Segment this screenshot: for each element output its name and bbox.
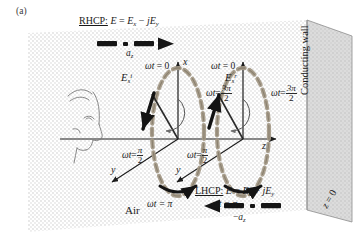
lhcp-E: E: [226, 185, 232, 196]
incident-phase-bottom-eq: = π: [159, 199, 173, 209]
lhcp-plus: +: [254, 185, 260, 196]
incident-E-sup: i: [130, 72, 132, 80]
incident-phase-bottom-omega: ωt: [147, 199, 156, 209]
reflected-phase-left: ωt=π2: [187, 146, 208, 165]
lhcp-equation: LHCP: E = Ex + jEy: [195, 186, 274, 198]
rhcp-term1-sub: x: [133, 20, 136, 27]
incident-phase-bottom: ωt = π: [147, 200, 172, 210]
rhcp-E: E: [110, 15, 116, 26]
reflected-phase-top-eq: = 0: [223, 61, 235, 71]
incident-phase-left-omega: ωt: [122, 150, 131, 160]
axis-label-x: x: [183, 57, 187, 67]
lhcp-direction-label: −az: [233, 213, 246, 223]
axis-label-z: z: [262, 141, 266, 151]
axis-label-y-reflected: y: [176, 165, 180, 175]
reflected-phase-bottom: ωt = π: [212, 200, 237, 210]
rhcp-equals: =: [119, 15, 125, 26]
incident-phase-left-den: 2: [137, 156, 144, 165]
lhcp-az-sub: z: [243, 216, 246, 223]
reflected-phase-left-den: 2: [202, 156, 209, 165]
conducting-wall-label: Conducting wall: [300, 25, 311, 95]
rhcp-prefix: RHCP:: [79, 15, 108, 26]
reflected-phase-right: ωt=3π2: [271, 84, 297, 103]
incident-phase-top-omega: ωt: [145, 61, 154, 71]
incident-phase-top-eq: = 0: [157, 61, 169, 71]
axis-label-y-incident: y: [111, 165, 115, 175]
incident-field-symbol: Esi: [121, 73, 132, 85]
reflected-phase-left-omega: ωt: [187, 150, 196, 160]
incident-phase-left: ωt=π2: [122, 146, 143, 165]
reflected-phase-top-omega: ωt: [211, 61, 220, 71]
rhcp-equation: RHCP: E = Ex − jEy: [79, 16, 159, 28]
figure-canvas: (a) RHCP: E = Ex − jEy az LHCP: E = Ex +…: [0, 0, 363, 238]
reflected-phase-top: ωt = 0: [211, 62, 235, 72]
rhcp-direction-label: az: [126, 49, 133, 59]
reflected-phase-bottom-eq: = π: [224, 199, 238, 209]
lhcp-equals: =: [234, 185, 240, 196]
lhcp-term1-sub: x: [249, 190, 252, 197]
reflected-phase-right-den: 2: [286, 94, 297, 103]
lhcp-prefix: LHCP:: [195, 185, 223, 196]
reflected-E-sup: r: [234, 72, 237, 80]
rhcp-az-sub: z: [131, 52, 134, 59]
air-label: Air: [125, 205, 140, 216]
reflected-phase-right-omega: ωt: [271, 88, 280, 98]
incident-phase-right-omega: ωt: [206, 88, 215, 98]
incident-phase-right-den: 2: [221, 94, 232, 103]
panel-label: (a): [16, 7, 27, 17]
rhcp-term2-sub: y: [156, 20, 159, 27]
reflected-phase-bottom-omega: ωt: [212, 199, 221, 209]
rhcp-minus: −: [139, 15, 145, 26]
lhcp-term2-sub: y: [271, 190, 274, 197]
incident-phase-top: ωt = 0: [145, 62, 169, 72]
incident-phase-right: ωt=3π2: [206, 84, 232, 103]
